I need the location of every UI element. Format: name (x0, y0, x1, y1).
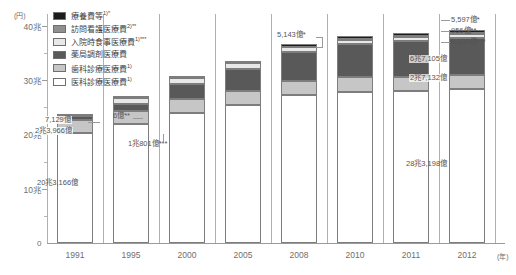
bar-segment-2011-入院時食事医療費 (393, 37, 429, 41)
bar-2012[interactable] (449, 30, 485, 243)
bar-segment-1995-療養費等 (113, 96, 149, 98)
annotation-bracket (316, 37, 323, 48)
bar-segment-2010-薬局調剤医療費 (337, 44, 373, 77)
x-axis-tick-label-2011: 2011 (386, 250, 436, 260)
legend-footnote-marker: 1) (127, 63, 132, 69)
bar-2000[interactable] (169, 76, 205, 243)
leader-line (441, 20, 450, 21)
x-axis-gridline (439, 14, 440, 243)
y-axis-tick-label: 40兆 (8, 20, 42, 32)
legend-label: 訪問看護医療費2)** (71, 24, 136, 34)
legend-swatch-icon (53, 38, 66, 46)
legend-label: 療養費等1)* (71, 11, 110, 21)
legend-label: 薬局調剤医療費 (71, 51, 127, 59)
annotation-1991-ika: 20兆3,166億 (37, 179, 78, 187)
y-axis-zero-label: 0 (37, 239, 41, 248)
x-axis-tick-label-2012: 2012 (442, 250, 492, 260)
bar-segment-2012-歯科診療医療費 (449, 75, 485, 90)
legend-label: 歯科診療医療費1) (71, 64, 132, 74)
x-axis-tick-label-2010: 2010 (330, 250, 380, 260)
x-axis-tick-label-1995: 1995 (106, 250, 156, 260)
legend-yakkyokuchouzai[interactable]: 薬局調剤医療費 (53, 49, 146, 62)
legend-swatch-icon (53, 12, 66, 20)
legend-ryouyouhi[interactable]: 療養費等1)* (53, 9, 146, 22)
bar-2011[interactable] (393, 33, 429, 243)
y-axis-tick-label: 30兆 (8, 74, 42, 86)
x-axis-gridline (271, 14, 272, 243)
legend-swatch-icon (53, 64, 66, 72)
bar-segment-2008-歯科診療医療費 (281, 81, 317, 95)
annotation-1991-shika: 2兆3,966億 (34, 127, 73, 135)
legend-swatch-icon (53, 25, 66, 33)
bar-segment-2000-薬局調剤医療費 (169, 84, 205, 99)
annotation-2012-shika: 2兆7,132億 (409, 74, 448, 82)
bar-segment-2010-医科診療医療費 (337, 92, 373, 243)
bar-segment-2005-薬局調剤医療費 (225, 69, 261, 92)
bar-segment-2005-歯科診療医療費 (225, 91, 261, 105)
annotation-2012-ika: 28兆3,198億 (406, 160, 447, 168)
bar-segment-2008-療養費等 (281, 44, 317, 47)
annotation-2008-ryouyou: 5,143億* (277, 31, 306, 39)
legend-houmonkango[interactable]: 訪問看護医療費2)** (53, 22, 146, 35)
chart-legend: 療養費等1)*訪問看護医療費2)**入院時食事医療費1)***薬局調剤医療費歯科… (53, 9, 146, 88)
x-axis-tick-label-2008: 2008 (274, 250, 324, 260)
leader-line (441, 31, 450, 32)
annotation-1995-houmon: 6億** (113, 112, 130, 120)
bar-segment-1995-薬局調剤医療費 (113, 104, 149, 111)
bar-segment-2000-療養費等 (169, 76, 205, 78)
legend-nyuinjishokuji[interactable]: 入院時食事医療費1)*** (53, 35, 146, 48)
bar-segment-2010-入院時食事医療費 (337, 40, 373, 44)
x-axis-line (47, 243, 505, 244)
bar-segment-2012-医科診療医療費 (449, 89, 485, 243)
bar-segment-1991-医科診療医療費 (57, 133, 93, 243)
annotation-2012-yakkyoku: 6兆7,105億 (409, 55, 448, 63)
legend-shika[interactable]: 歯科診療医療費1) (53, 62, 146, 75)
leader-line (163, 134, 164, 142)
legend-ika[interactable]: 医科診療医療費1) (53, 75, 146, 88)
bar-2008[interactable] (281, 44, 317, 243)
bar-2010[interactable] (337, 36, 373, 243)
bar-segment-2005-療養費等 (225, 61, 261, 63)
x-axis-tick-label-1991: 1991 (50, 250, 100, 260)
bar-segment-2005-入院時食事医療費 (225, 63, 261, 68)
y-axis-unit-label: (円) (14, 10, 26, 20)
x-axis-gridline (159, 14, 160, 243)
bar-segment-2010-療養費等 (337, 36, 373, 39)
legend-swatch-icon (53, 51, 66, 59)
x-axis-gridline (327, 14, 328, 243)
legend-footnote-marker: 1)* (103, 10, 110, 16)
annotation-1991-yakkyoku: 7,129億 (44, 116, 72, 124)
legend-swatch-icon (53, 78, 66, 86)
x-axis-unit-label: (年) (497, 251, 509, 261)
leader-line (441, 42, 450, 43)
bar-segment-2011-療養費等 (393, 33, 429, 36)
bar-segment-2000-入院時食事医療費 (169, 78, 205, 84)
legend-label: 医科診療医療費1) (71, 77, 132, 87)
x-axis-gridline (495, 14, 496, 243)
annotation-2012-shokuji: 8,130億*** (451, 38, 486, 46)
x-axis-gridline (215, 14, 216, 243)
legend-footnote-marker: 1) (127, 76, 132, 82)
leader-line (88, 122, 100, 123)
bar-segment-2000-医科診療医療費 (169, 113, 205, 243)
bar-segment-2005-医科診療医療費 (225, 105, 261, 243)
legend-footnote-marker: 1)*** (135, 36, 146, 42)
bar-segment-2010-歯科診療医療費 (337, 77, 373, 91)
bar-segment-2008-医科診療医療費 (281, 95, 317, 243)
legend-footnote-marker: 2)** (127, 23, 136, 29)
annotation-2012-houmon: 956億** (451, 27, 476, 35)
x-axis-tick-label-2005: 2005 (218, 250, 268, 260)
bar-segment-2008-薬局調剤医療費 (281, 52, 317, 81)
x-axis-gridline (383, 14, 384, 243)
medical-expenditure-chart: (円) 40兆30兆20兆10兆199119952000200520082010… (0, 0, 516, 275)
annotation-2000-shokuji: 1兆801億*** (128, 140, 167, 148)
annotation-2012-ryouyou: 5,597億* (451, 16, 480, 24)
x-axis-tick-label-2000: 2000 (162, 250, 212, 260)
bar-segment-2008-入院時食事医療費 (281, 47, 317, 52)
bar-segment-1995-入院時食事医療費 (113, 98, 149, 104)
bar-2005[interactable] (225, 61, 261, 243)
leader-line (133, 118, 143, 119)
bar-segment-2000-歯科診療医療費 (169, 99, 205, 113)
legend-label: 入院時食事医療費1)*** (71, 37, 146, 47)
